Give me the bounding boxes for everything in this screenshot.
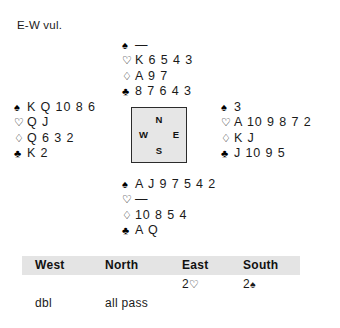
west-clubs-row: ♣ K 2 — [14, 146, 96, 161]
vulnerability-label: E-W vul. — [17, 19, 62, 31]
north-clubs-cards: 8 7 6 4 3 — [135, 84, 192, 99]
heart-icon: ♡ — [14, 115, 27, 130]
north-spades-cards: — — [135, 38, 148, 53]
south-hearts-row: ♡ — — [122, 192, 216, 207]
north-diamonds-row: ♢ A 9 7 — [122, 69, 193, 84]
hand-south: ♠ A J 9 7 5 4 2 ♡ — ♢ 10 8 5 4 ♣ A Q — [122, 177, 216, 239]
south-hearts-cards: — — [135, 192, 148, 207]
spade-icon: ♠ — [250, 278, 256, 290]
west-spades-row: ♠ K Q 10 8 6 — [14, 100, 96, 115]
east-hearts-row: ♡ A 10 9 8 7 2 — [221, 115, 312, 130]
spade-icon: ♠ — [221, 100, 234, 115]
west-hearts-row: ♡ Q J — [14, 115, 96, 130]
west-hearts-cards: Q J — [27, 115, 49, 130]
north-spades-row: ♠ — — [122, 38, 193, 53]
compass-box: N W E S — [131, 107, 187, 163]
compass-west-label: W — [139, 130, 148, 140]
auction-bid-north-2: all pass — [105, 294, 148, 313]
south-spades-cards: A J 9 7 5 4 2 — [135, 177, 216, 192]
north-clubs-row: ♣ 8 7 6 4 3 — [122, 84, 193, 99]
west-clubs-cards: K 2 — [27, 146, 48, 161]
hand-east: ♠ 3 ♡ A 10 9 8 7 2 ♢ K J ♣ J 10 9 5 — [221, 100, 312, 162]
south-spades-row: ♠ A J 9 7 5 4 2 — [122, 177, 216, 192]
north-hearts-cards: K 6 5 4 3 — [135, 53, 193, 68]
auction-table: West North East South 2♡ 2♠ dbl all pass — [22, 256, 300, 311]
diamond-icon: ♢ — [221, 131, 234, 146]
auction-bid-west-2: dbl — [35, 294, 52, 313]
heart-icon: ♡ — [221, 115, 234, 130]
east-clubs-cards: J 10 9 5 — [234, 146, 286, 161]
auction-row: 2♡ 2♠ — [22, 275, 300, 294]
west-diamonds-row: ♢ Q 6 3 2 — [14, 131, 96, 146]
auction-header-west: West — [35, 256, 65, 275]
east-hearts-cards: A 10 9 8 7 2 — [234, 115, 312, 130]
south-diamonds-cards: 10 8 5 4 — [135, 208, 187, 223]
north-hearts-row: ♡ K 6 5 4 3 — [122, 53, 193, 68]
club-icon: ♣ — [221, 146, 234, 161]
compass-east-label: E — [173, 130, 179, 140]
heart-icon: ♡ — [122, 53, 135, 68]
south-clubs-row: ♣ A Q — [122, 223, 216, 238]
heart-icon: ♡ — [122, 192, 135, 207]
diamond-icon: ♢ — [122, 69, 135, 84]
auction-bid-east-1: 2♡ — [182, 275, 199, 294]
hand-west: ♠ K Q 10 8 6 ♡ Q J ♢ Q 6 3 2 ♣ K 2 — [14, 100, 96, 162]
east-diamonds-row: ♢ K J — [221, 131, 312, 146]
auction-header-north: North — [105, 256, 139, 275]
compass-south-label: S — [156, 146, 162, 156]
east-diamonds-cards: K J — [234, 131, 255, 146]
auction-header-south: South — [243, 256, 279, 275]
east-spades-row: ♠ 3 — [221, 100, 312, 115]
south-diamonds-row: ♢ 10 8 5 4 — [122, 208, 216, 223]
east-clubs-row: ♣ J 10 9 5 — [221, 146, 312, 161]
club-icon: ♣ — [14, 146, 27, 161]
heart-icon: ♡ — [189, 278, 199, 290]
diamond-icon: ♢ — [122, 208, 135, 223]
club-icon: ♣ — [122, 84, 135, 99]
diamond-icon: ♢ — [14, 131, 27, 146]
hand-north: ♠ — ♡ K 6 5 4 3 ♢ A 9 7 ♣ 8 7 6 4 3 — [122, 38, 193, 100]
west-spades-cards: K Q 10 8 6 — [27, 100, 96, 115]
auction-bid-south-1: 2♠ — [243, 275, 256, 294]
spade-icon: ♠ — [122, 177, 135, 192]
south-clubs-cards: A Q — [135, 223, 159, 238]
spade-icon: ♠ — [14, 100, 27, 115]
auction-header-east: East — [182, 256, 209, 275]
auction-header-row: West North East South — [22, 256, 300, 275]
auction-row: dbl all pass — [22, 294, 300, 311]
club-icon: ♣ — [122, 223, 135, 238]
compass-north-label: N — [156, 115, 163, 125]
north-diamonds-cards: A 9 7 — [135, 69, 168, 84]
west-diamonds-cards: Q 6 3 2 — [27, 131, 74, 146]
spade-icon: ♠ — [122, 38, 135, 53]
east-spades-cards: 3 — [234, 100, 242, 115]
